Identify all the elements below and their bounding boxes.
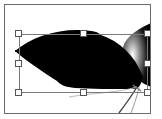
black-leaf[interactable] (15, 30, 143, 89)
resize-handle-middle-right[interactable] (144, 60, 151, 67)
resize-handle-bottom-center[interactable] (80, 89, 87, 96)
canvas[interactable] (4, 4, 151, 114)
resize-handle-bottom-right[interactable] (144, 89, 151, 96)
resize-handle-top-left[interactable] (15, 30, 22, 37)
resize-handle-top-center[interactable] (80, 30, 87, 37)
resize-handle-top-right[interactable] (144, 30, 151, 37)
resize-handle-bottom-left[interactable] (15, 89, 22, 96)
artwork (5, 5, 150, 113)
resize-handle-middle-left[interactable] (15, 60, 22, 67)
